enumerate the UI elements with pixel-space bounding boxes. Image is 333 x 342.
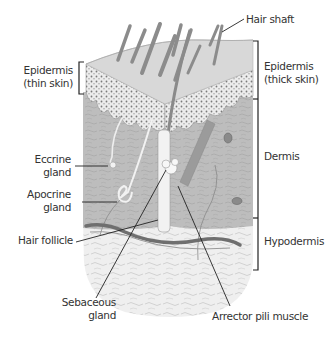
label-sebaceous-gland: Sebaceous gland: [62, 296, 116, 321]
label-eccrine-gland: Eccrine gland: [35, 153, 71, 178]
label-hair-follicle: Hair follicle: [18, 234, 73, 247]
bracket-epidermis-thin: [79, 62, 84, 94]
label-apocrine-gland: Apocrine gland: [27, 188, 71, 213]
label-dermis: Dermis: [264, 150, 300, 163]
label-hair-shaft: Hair shaft: [246, 13, 294, 26]
label-epidermis-thick: Epidermis (thick skin): [264, 60, 319, 85]
label-arrector-pili-muscle: Arrector pili muscle: [212, 310, 308, 323]
label-hypodermis: Hypodermis: [264, 235, 324, 248]
bracket-right-layers: [253, 41, 258, 270]
label-epidermis-thin: Epidermis (thin skin): [23, 64, 73, 89]
